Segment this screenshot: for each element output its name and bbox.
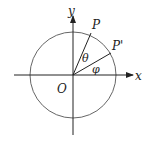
y-axis-label: y bbox=[67, 4, 75, 18]
phi-label: φ bbox=[92, 63, 100, 76]
diagram-canvas: y x O P P' θ φ bbox=[0, 0, 152, 142]
x-axis-label: x bbox=[135, 69, 142, 83]
origin-label: O bbox=[57, 82, 67, 96]
point-p-label: P bbox=[91, 18, 101, 32]
point-p-prime-label: P' bbox=[111, 39, 123, 53]
theta-label: θ bbox=[82, 52, 89, 65]
